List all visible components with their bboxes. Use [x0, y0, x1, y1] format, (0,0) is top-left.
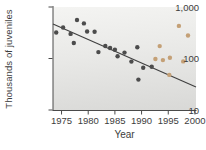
data-point-dark [85, 29, 89, 33]
data-point-light [177, 24, 181, 28]
data-point-dark [108, 46, 112, 50]
data-point-light [153, 57, 157, 61]
data-point-dark [103, 44, 107, 48]
data-point-dark [135, 45, 139, 49]
plot-svg [0, 0, 206, 150]
data-point-dark [75, 18, 79, 22]
data-point-dark [115, 54, 119, 58]
data-point-dark [150, 65, 154, 69]
x-tick-label: 1980 [73, 115, 103, 126]
data-point-dark [82, 21, 86, 25]
x-tick-label: 1990 [127, 115, 157, 126]
x-tick-label: 2000 [180, 115, 206, 126]
y-tick-label: 100 [158, 53, 206, 64]
juvenile-population-chart: Thousands of juveniles 1,00010010 197519… [0, 0, 206, 150]
data-point-dark [129, 59, 133, 63]
data-point-dark [54, 30, 58, 34]
y-axis-title: Thousands of juveniles [3, 4, 15, 114]
data-point-dark [122, 50, 126, 54]
data-point-light [186, 33, 190, 37]
x-tick-label: 1975 [47, 115, 77, 126]
data-point-dark [136, 77, 140, 81]
x-tick-label: 1985 [100, 115, 130, 126]
data-point-dark [72, 41, 76, 45]
data-point-dark [141, 66, 145, 70]
x-axis-title: Year [53, 129, 196, 140]
y-tick-label: 10 [158, 105, 206, 116]
data-point-light [167, 73, 171, 77]
data-point-dark [113, 48, 117, 52]
y-tick-label: 1,000 [158, 2, 206, 13]
data-point-light [158, 44, 162, 48]
data-point-dark [96, 50, 100, 54]
data-point-dark [92, 30, 96, 34]
data-point-dark [61, 25, 65, 29]
data-point-dark [68, 32, 72, 36]
x-tick-label: 1995 [153, 115, 183, 126]
